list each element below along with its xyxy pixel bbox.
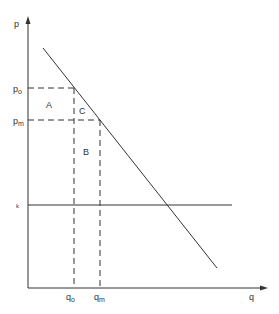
p-o-label: po [13, 84, 22, 95]
y-axis-label: p [14, 19, 19, 29]
demand-curve [43, 48, 217, 268]
region-a-label: A [46, 100, 52, 110]
q-o-label: qo [66, 292, 75, 303]
x-axis-arrow-icon [260, 286, 268, 291]
p-m-label: pm [13, 116, 24, 127]
region-b-label: B [83, 147, 89, 157]
y-axis-arrow-icon [26, 16, 31, 24]
q-m-label: qm [94, 292, 105, 303]
monopoly-demand-diagram: p q po pm k qo qm A C B [0, 0, 279, 314]
x-axis-label: q [249, 292, 254, 302]
region-c-label: C [79, 106, 86, 116]
k-label: k [16, 203, 20, 209]
